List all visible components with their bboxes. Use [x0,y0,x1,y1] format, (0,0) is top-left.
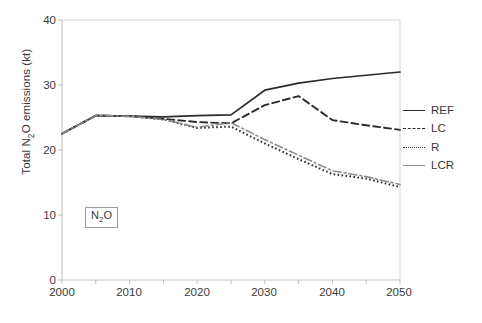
axis-frame [62,20,400,280]
x-axis-ticks [62,280,400,284]
legend-line-icon-lc [403,128,425,129]
data-series-group [62,72,400,187]
legend-label: LC [431,123,446,135]
species-annotation-pre: N [91,209,99,221]
legend-item-lcr[interactable]: LCR [403,157,479,176]
legend-item-r[interactable]: R [403,138,479,157]
legend-item-lc[interactable]: LC [403,120,479,139]
series-line-r [62,116,400,188]
legend-label: R [431,142,439,154]
legend-label: LCR [431,160,454,172]
figure-container: Total N2O emissions (kt) 40 30 20 10 0 2… [0,0,482,323]
legend-line-icon-lcr [403,165,425,166]
series-line-lcr [62,116,400,185]
species-annotation-post: O [103,209,112,221]
legend-item-ref[interactable]: REF [403,101,479,120]
y-axis-ticks [58,20,62,280]
legend-line-icon-r [403,147,425,148]
series-line-ref [62,72,400,134]
legend: REF LC R LCR [403,101,479,175]
legend-label: REF [431,105,454,117]
species-annotation: N2O [85,207,118,228]
legend-line-icon-ref [403,110,425,111]
